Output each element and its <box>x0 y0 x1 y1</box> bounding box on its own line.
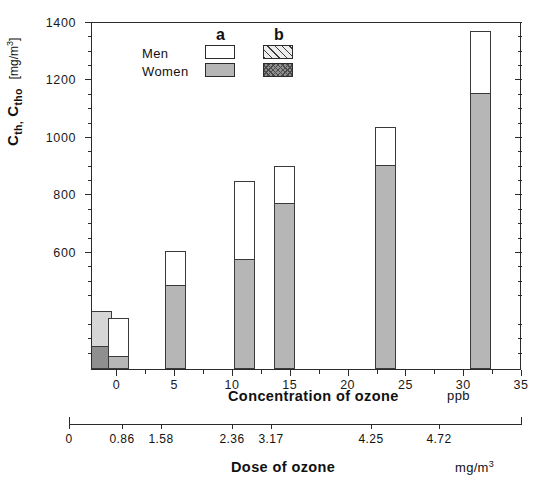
y-tick-minor-right <box>518 295 522 296</box>
x-axis-secondary-unit: mg/m3 <box>455 459 494 475</box>
x-tick-major <box>463 370 464 376</box>
legend-swatch-men-a <box>205 45 235 59</box>
y-tick-minor-right <box>518 51 522 52</box>
dose-tick <box>371 424 372 429</box>
x-tick-major <box>174 370 175 376</box>
y-tick-minor <box>88 281 92 282</box>
legend-column-a-label: a <box>216 26 225 44</box>
legend-label-men: Men <box>142 46 169 61</box>
y-axis-unit: [mg/m3] <box>7 38 21 80</box>
x-tick-minor <box>377 370 378 374</box>
x-tick-major <box>405 370 406 376</box>
y-tick-minor-right <box>518 166 522 167</box>
bar-a-6 <box>470 31 491 369</box>
y-tick-minor <box>88 94 92 95</box>
x-axis-line: 05101520253035 <box>91 369 521 370</box>
y-tick-minor-right <box>518 180 522 181</box>
bar-a-2 <box>165 251 186 369</box>
bar-segment-women <box>471 93 490 368</box>
y-axis-title-sub2: tho <box>12 88 24 105</box>
dose-tick-label: 2.36 <box>220 432 245 446</box>
y-tick-minor-right <box>518 94 522 95</box>
y-tick-minor <box>88 166 92 167</box>
legend-label-women: Women <box>142 64 189 79</box>
y-tick-minor-right <box>518 324 522 325</box>
x-tick-minor <box>492 370 493 374</box>
y-tick-minor <box>88 65 92 66</box>
x-axis-secondary-title: Dose of ozone <box>231 459 335 475</box>
x-tick-minor <box>203 370 204 374</box>
dose-tick <box>69 424 70 429</box>
y-tick-minor <box>88 266 92 267</box>
bar-a-4 <box>274 166 295 369</box>
y-tick-minor <box>88 324 92 325</box>
dose-tick-label: 3.17 <box>259 432 284 446</box>
y-tick-minor <box>88 151 92 152</box>
y-tick-minor <box>88 108 92 109</box>
x-tick-major <box>521 370 522 376</box>
legend-column-b-label: b <box>274 26 284 44</box>
x-tick-minor <box>145 370 146 374</box>
x-tick-label: 5 <box>170 378 177 392</box>
y-tick-minor-right <box>518 65 522 66</box>
y-tick-major-right <box>515 79 522 80</box>
dose-tick-label: 4.25 <box>359 432 384 446</box>
bar-segment-men <box>275 167 294 203</box>
y-tick-label: 1400 <box>46 16 76 30</box>
bar-segment-men <box>471 32 490 93</box>
y-tick-minor-right <box>518 123 522 124</box>
y-axis-title-c2: C <box>4 106 21 117</box>
y-tick-major: 600 <box>85 252 92 253</box>
dose-tick <box>161 424 162 429</box>
y-tick-minor <box>88 295 92 296</box>
chart-root: Cth, Ctho [mg/m3] 140012001000800600 051… <box>0 0 553 495</box>
x-tick-minor <box>434 370 435 374</box>
bar-segment-women <box>166 285 185 368</box>
dose-tick <box>232 424 233 429</box>
bar-segment-women <box>235 259 254 368</box>
y-tick-minor-right <box>518 238 522 239</box>
dose-tick-label: 4.72 <box>427 432 452 446</box>
y-tick-major-right <box>515 137 522 138</box>
bar-segment-men <box>166 252 185 285</box>
x-tick-minor <box>319 370 320 374</box>
x-tick-major <box>116 370 117 376</box>
x-axis-primary-title: Concentration of ozone <box>228 388 399 404</box>
x-tick-label: 25 <box>398 378 413 392</box>
y-tick-major: 1000 <box>85 137 92 138</box>
y-tick-minor <box>88 36 92 37</box>
y-tick-minor-right <box>518 353 522 354</box>
dose-tick <box>122 424 123 429</box>
y-tick-label: 600 <box>53 246 76 260</box>
legend-swatch-women-b <box>263 63 293 77</box>
legend-swatch-men-b <box>263 45 293 59</box>
x-tick-major <box>290 370 291 376</box>
bar-a-1 <box>108 318 129 369</box>
bar-segment-men <box>376 128 395 165</box>
dose-tick-label: 0.86 <box>110 432 135 446</box>
bar-a-5 <box>375 127 396 369</box>
bar-segment-men <box>109 319 128 356</box>
y-axis-title: Cth, Ctho [mg/m3] <box>4 118 24 146</box>
y-tick-major-right <box>515 22 522 23</box>
y-tick-minor <box>88 180 92 181</box>
y-tick-minor <box>88 223 92 224</box>
dose-tick <box>271 424 272 429</box>
x-tick-label: 35 <box>514 378 529 392</box>
y-tick-label: 1200 <box>46 73 76 87</box>
dose-tick <box>439 424 440 429</box>
y-tick-minor-right <box>518 151 522 152</box>
y-tick-minor <box>88 51 92 52</box>
bar-segment-women <box>376 165 395 368</box>
legend-swatch-women-a <box>205 63 235 77</box>
y-tick-major-right <box>515 252 522 253</box>
y-axis-title-sub1: th, <box>12 121 24 135</box>
bar-a-3 <box>234 181 255 369</box>
y-axis-line: 140012001000800600 <box>91 22 92 369</box>
y-tick-major-right <box>515 194 522 195</box>
dose-tick-label: 0 <box>65 432 72 446</box>
bar-segment-men <box>235 182 254 260</box>
y-tick-major: 800 <box>85 194 92 195</box>
y-tick-minor <box>88 209 92 210</box>
y-tick-minor-right <box>518 266 522 267</box>
